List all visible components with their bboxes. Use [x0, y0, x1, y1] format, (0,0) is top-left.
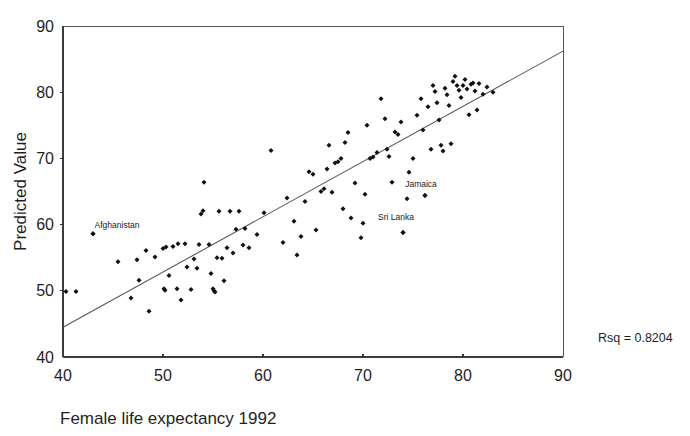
- y-tick-label: 40: [36, 349, 54, 366]
- data-point: [431, 83, 436, 88]
- data-point: [445, 92, 450, 97]
- data-point: [365, 123, 370, 128]
- data-point: [429, 147, 434, 152]
- data-point: [189, 287, 194, 292]
- data-point: [129, 296, 134, 301]
- data-point: [292, 219, 297, 224]
- y-tick-label: 50: [36, 282, 54, 299]
- data-point: [383, 116, 388, 121]
- data-point: [461, 83, 466, 88]
- data-point: [463, 77, 468, 82]
- data-point: [303, 199, 308, 204]
- data-point: [363, 192, 368, 197]
- data-point: [341, 206, 346, 211]
- data-point: [359, 235, 364, 240]
- data-point: [176, 241, 181, 246]
- data-point: [453, 74, 458, 79]
- data-point: [379, 96, 384, 101]
- data-point: [349, 215, 354, 220]
- data-point: [171, 244, 176, 249]
- data-point: [459, 95, 464, 100]
- data-point: [202, 180, 207, 185]
- plot-canvas: 405060708090405060708090Predicted ValueF…: [0, 0, 690, 436]
- data-point: [405, 196, 410, 201]
- data-point: [346, 130, 351, 135]
- data-point: [477, 81, 482, 86]
- data-point: [465, 86, 470, 91]
- point-label-jamaica: Jamaica: [405, 179, 437, 189]
- data-point: [285, 196, 290, 201]
- data-point: [183, 241, 188, 246]
- data-point: [175, 286, 180, 291]
- data-point: [295, 253, 300, 258]
- data-point: [433, 89, 438, 94]
- data-point: [220, 256, 225, 261]
- data-point: [307, 169, 312, 174]
- data-point: [64, 289, 69, 294]
- data-point: [269, 148, 274, 153]
- data-point: [325, 166, 330, 171]
- data-point: [116, 259, 121, 264]
- data-point: [247, 245, 252, 250]
- x-axis-title: Female life expectancy 1992: [60, 409, 276, 428]
- data-point: [299, 234, 304, 239]
- x-tick-label: 50: [154, 367, 172, 384]
- data-point: [451, 79, 456, 84]
- data-point: [473, 88, 478, 93]
- rsq-annotation: Rsq = 0.8204: [598, 331, 673, 345]
- x-tick-label: 60: [254, 367, 272, 384]
- y-tick-label: 70: [36, 150, 54, 167]
- data-point: [195, 266, 200, 271]
- data-point: [243, 226, 248, 231]
- point-label-sri-lanka: Sri Lanka: [378, 212, 414, 222]
- point-label-afghanistan: Afghanistan: [95, 220, 140, 230]
- data-point: [147, 309, 152, 314]
- data-point: [137, 278, 142, 283]
- labelled-data-point: [91, 231, 96, 236]
- data-point: [339, 156, 344, 161]
- scatter-plot-figure: 405060708090405060708090Predicted ValueF…: [0, 0, 690, 436]
- x-tick-label: 40: [54, 367, 72, 384]
- regression-line: [63, 51, 563, 327]
- data-point: [135, 257, 140, 262]
- y-axis-title: Predicted Value: [11, 132, 30, 251]
- data-point: [421, 127, 426, 132]
- data-point: [399, 119, 404, 124]
- y-tick-label: 90: [36, 18, 54, 35]
- x-tick-label: 90: [554, 367, 572, 384]
- data-point: [153, 255, 158, 260]
- data-point: [485, 84, 490, 89]
- data-point: [449, 141, 454, 146]
- data-point: [343, 140, 348, 145]
- data-point: [390, 180, 395, 185]
- data-point: [435, 100, 440, 105]
- data-point: [179, 298, 184, 303]
- data-point: [228, 209, 233, 214]
- data-point: [144, 248, 149, 253]
- data-point: [411, 156, 416, 161]
- data-point: [330, 190, 335, 195]
- data-point: [255, 232, 260, 237]
- data-point: [237, 209, 242, 214]
- data-point: [475, 108, 480, 113]
- data-point: [419, 96, 424, 101]
- data-point: [262, 210, 267, 215]
- data-point: [441, 149, 446, 154]
- data-point: [311, 172, 316, 177]
- y-tick-label: 80: [36, 84, 54, 101]
- data-point: [215, 255, 220, 260]
- data-point: [415, 113, 420, 118]
- data-point: [407, 170, 412, 175]
- data-point: [467, 112, 472, 117]
- data-point: [375, 150, 380, 155]
- data-point: [167, 273, 172, 278]
- labelled-data-point: [401, 230, 406, 235]
- y-tick-label: 60: [36, 216, 54, 233]
- data-point: [457, 88, 462, 93]
- data-point: [185, 264, 190, 269]
- data-point: [217, 209, 222, 214]
- data-point: [439, 143, 444, 148]
- x-tick-label: 70: [354, 367, 372, 384]
- data-point: [426, 104, 431, 109]
- data-point: [222, 278, 227, 283]
